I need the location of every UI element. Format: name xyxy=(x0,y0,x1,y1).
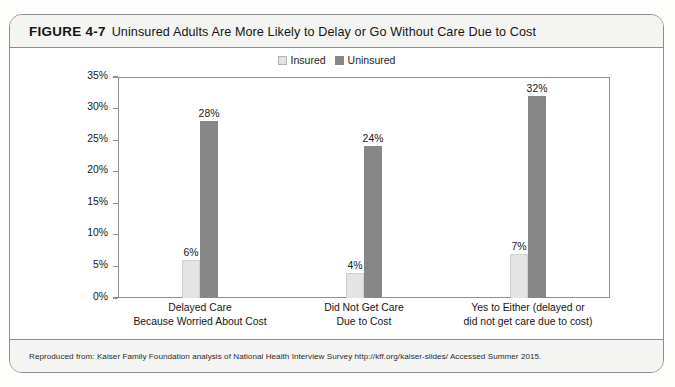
figure-frame: FIGURE 4-7Uninsured Adults Are More Like… xyxy=(9,14,664,373)
legend-label-uninsured: Uninsured xyxy=(348,54,396,66)
x-axis-category-label: Yes to Either (delayed ordid not get car… xyxy=(446,301,610,329)
x-axis-category-line: Delayed Care xyxy=(118,301,282,315)
bar-uninsured[interactable] xyxy=(528,96,546,298)
legend-label-insured: Insured xyxy=(291,54,326,66)
source-credit-line: Reproduced from: Kaiser Family Foundatio… xyxy=(10,352,541,361)
x-axis-category-line: Due to Cost xyxy=(282,315,446,329)
figure-header-band: FIGURE 4-7Uninsured Adults Are More Like… xyxy=(10,15,663,48)
x-axis-category-label: Delayed CareBecause Worried About Cost xyxy=(118,301,282,329)
y-axis-tick-label: 30% xyxy=(87,101,108,112)
figure-caption: FIGURE 4-7Uninsured Adults Are More Like… xyxy=(10,24,536,39)
x-axis-category-line: Did Not Get Care xyxy=(282,301,446,315)
figure-caption-text: Uninsured Adults Are More Likely to Dela… xyxy=(112,25,536,39)
chart-legend: Insured Uninsured xyxy=(10,54,663,66)
chart-body: Insured Uninsured 0%5%10%15%20%25%30%35%… xyxy=(10,48,663,339)
bar-insured[interactable] xyxy=(510,254,528,298)
bar-uninsured[interactable] xyxy=(200,121,218,298)
figure-page: FIGURE 4-7Uninsured Adults Are More Like… xyxy=(0,0,675,387)
y-axis-tick-label: 35% xyxy=(87,70,108,81)
legend-swatch-uninsured-icon xyxy=(335,56,344,65)
y-axis-tick-label: 0% xyxy=(93,291,108,302)
y-axis-tick-label: 15% xyxy=(87,196,108,207)
x-axis: Delayed CareBecause Worried About CostDi… xyxy=(118,301,610,329)
y-axis: 0%5%10%15%20%25%30%35% xyxy=(10,77,118,298)
figure-number: FIGURE 4-7 xyxy=(29,24,106,39)
bar-slot: 32% xyxy=(528,77,546,298)
figure-footer-band: Reproduced from: Kaiser Family Foundatio… xyxy=(10,339,663,372)
y-axis-tick-label: 10% xyxy=(87,227,108,238)
x-axis-category-line: Yes to Either (delayed or xyxy=(446,301,610,315)
bar-insured[interactable] xyxy=(346,273,364,298)
legend-swatch-insured-icon xyxy=(278,56,287,65)
y-axis-tick-label: 20% xyxy=(87,164,108,175)
bar-uninsured[interactable] xyxy=(364,146,382,298)
legend-item-uninsured[interactable]: Uninsured xyxy=(335,54,396,66)
x-axis-category-line: did not get care due to cost) xyxy=(446,315,610,329)
y-axis-tick-label: 5% xyxy=(93,259,108,270)
x-axis-category-line: Because Worried About Cost xyxy=(118,315,282,329)
bar-insured[interactable] xyxy=(182,260,200,298)
x-axis-category-label: Did Not Get CareDue to Cost xyxy=(282,301,446,329)
y-axis-tick-label: 25% xyxy=(87,133,108,144)
legend-item-insured[interactable]: Insured xyxy=(278,54,326,66)
